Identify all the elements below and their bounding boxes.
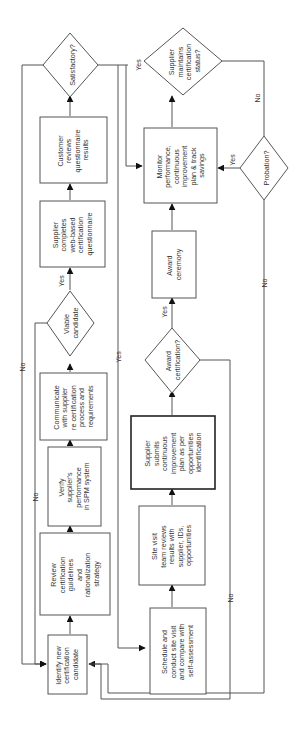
label-satisfactory-yes-schedule: Yes	[115, 351, 122, 363]
svg-text:Probation?: Probation?	[262, 151, 271, 186]
node-award-ceremony: Award ceremony	[152, 231, 196, 298]
svg-text:Viable candidate: Viable candidate	[62, 307, 80, 338]
svg-text:Schedule and conduct s: Schedule and conduct site visit and comp…	[160, 622, 195, 681]
svg-text:Communicate with suppl: Communicate with supplier re certificati…	[52, 383, 95, 430]
label-viable-yes: Yes	[58, 275, 65, 287]
node-review: Review certification guidelines and rati…	[40, 533, 110, 615]
label-viable-no: No	[32, 492, 39, 501]
node-customer-reviews: Customer reviews questionnaire results	[40, 117, 107, 183]
node-communicate: Communicate with supplier re certificati…	[40, 373, 107, 440]
svg-text:Satisfactory?: Satisfactory?	[68, 44, 77, 86]
node-viable-candidate: Viable candidate	[47, 291, 94, 356]
nodes: Identify new certification candidate Rev…	[40, 28, 288, 694]
label-satisfactory-yes-top: Yes	[135, 59, 142, 71]
node-site-visit: Site visit team reviews results with sup…	[139, 506, 205, 585]
node-award-certification: Award certification?	[145, 328, 200, 393]
label-probation-no: No	[261, 278, 268, 287]
label-award-no: No	[227, 593, 234, 602]
node-satisfactory: Satisfactory?	[43, 33, 98, 97]
node-probation: Probation?	[240, 136, 288, 200]
label-probation-yes: Yes	[229, 154, 236, 166]
node-schedule: Schedule and conduct site visit and comp…	[150, 608, 206, 694]
flowchart-canvas: Identify new certification candidate Rev…	[0, 0, 292, 734]
node-verify: Verify supplier's performance in SPM sys…	[48, 447, 101, 526]
node-maintains-status: Supplier maintains certification status?	[144, 28, 222, 95]
node-questionnaire: Supplier completes web-based certificati…	[40, 201, 105, 267]
edge-satisfactory-yes-monitor	[126, 65, 142, 166]
label-satisfactory-no: No	[19, 362, 26, 371]
svg-text:Identify new certifica: Identify new certification candidate	[54, 644, 80, 684]
node-submits-plan: Supplier submits continuous improvement …	[131, 416, 215, 489]
label-award-yes: Yes	[161, 306, 168, 318]
node-identify: Identify new certification candidate	[48, 635, 87, 694]
label-maintains-no: No	[254, 93, 261, 102]
node-monitor: Monitor performance, continuous improvem…	[144, 128, 217, 203]
